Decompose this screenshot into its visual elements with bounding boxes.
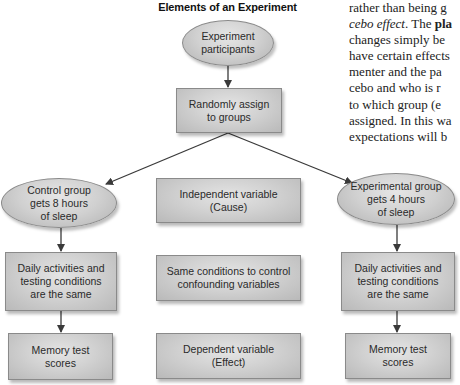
node-label: Experiment	[201, 30, 255, 43]
node-control-group: Control group gets 8 hours of sleep	[1, 178, 117, 228]
node-label: Daily activities and	[355, 262, 442, 275]
node-label: Same conditions to control	[167, 265, 291, 278]
node-experimental-memory-scores: Memory test scores	[345, 333, 451, 379]
body-text-line: assigned. In this wa	[349, 113, 460, 129]
body-text-line: have certain effects	[349, 48, 460, 64]
body-text-line: rather than being g	[349, 0, 460, 16]
body-text-line: menter and the pa	[349, 64, 460, 80]
node-independent-variable: Independent variable (Cause)	[156, 178, 301, 223]
node-label: are the same	[355, 288, 442, 301]
node-control-memory-scores: Memory test scores	[8, 333, 113, 380]
node-label: Dependent variable	[183, 343, 274, 356]
node-label: Independent variable	[179, 188, 277, 201]
node-label: participants	[201, 43, 255, 56]
node-label: to groups	[189, 111, 270, 124]
body-text-line: cebo effect. The pla	[349, 16, 460, 32]
node-label: testing conditions	[355, 275, 442, 288]
node-label: Memory test	[32, 344, 90, 357]
node-label: confounding variables	[167, 278, 291, 291]
placebo-bold-term: pla	[435, 16, 452, 31]
node-label: Randomly assign	[189, 98, 270, 111]
node-dependent-variable: Dependent variable (Effect)	[156, 333, 301, 379]
node-label: Memory test	[369, 343, 427, 356]
node-label: Control group	[27, 184, 91, 197]
body-text-fragment: . The	[405, 16, 435, 31]
placebo-effect-term: cebo effect	[349, 16, 405, 31]
node-experimental-daily-activities: Daily activities and testing conditions …	[341, 252, 455, 311]
node-label: are the same	[18, 288, 105, 301]
body-text-column: rather than being g cebo effect. The pla…	[349, 0, 460, 145]
node-confounding-variables: Same conditions to control confounding v…	[156, 255, 301, 301]
node-experimental-group: Experimental group gets 4 hours of sleep	[337, 173, 455, 225]
arrow-assign-to-experimental	[228, 133, 352, 183]
node-label: testing conditions	[18, 275, 105, 288]
node-control-daily-activities: Daily activities and testing conditions …	[5, 252, 117, 311]
body-text-line: to which group (e	[349, 97, 460, 113]
node-randomly-assign: Randomly assign to groups	[176, 88, 282, 133]
node-label: (Effect)	[183, 356, 274, 369]
node-label: (Cause)	[179, 201, 277, 214]
body-text-line: expectations will b	[349, 129, 460, 145]
node-label: scores	[32, 357, 90, 370]
arrow-assign-to-control	[106, 133, 228, 184]
diagram-title: Elements of an Experiment	[150, 1, 305, 13]
node-experiment-participants: Experiment participants	[182, 20, 274, 66]
body-text-line: cebo and who is r	[349, 80, 460, 96]
node-label: gets 8 hours	[27, 197, 91, 210]
node-label: scores	[369, 356, 427, 369]
node-label: of sleep	[350, 206, 441, 219]
node-label: Experimental group	[350, 180, 441, 193]
node-label: Daily activities and	[18, 262, 105, 275]
node-label: of sleep	[27, 210, 91, 223]
body-text-line: changes simply be	[349, 32, 460, 48]
node-label: gets 4 hours	[350, 193, 441, 206]
